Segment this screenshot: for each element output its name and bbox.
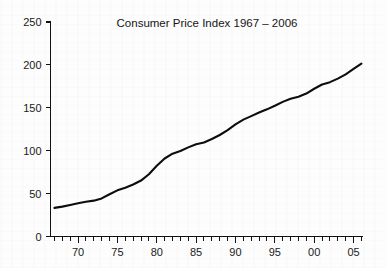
- y-tick-label: 100: [23, 145, 41, 157]
- y-axis-ticks: 050100150200250: [23, 16, 50, 243]
- cpi-line-chart: Consumer Price Index 1967 – 2006 0501001…: [0, 0, 386, 268]
- chart-screenshot: Consumer Price Index 1967 – 2006 0501001…: [0, 0, 386, 268]
- x-tick-label: 90: [229, 246, 241, 258]
- y-tick-label: 0: [35, 231, 41, 243]
- x-tick-label: 95: [269, 246, 281, 258]
- y-tick-label: 200: [23, 59, 41, 71]
- y-tick-label: 150: [23, 102, 41, 114]
- chart-title: Consumer Price Index 1967 – 2006: [117, 17, 298, 29]
- x-tick-label: 80: [151, 246, 163, 258]
- x-tick-label: 00: [308, 246, 320, 258]
- data-series-group: [54, 64, 361, 208]
- x-axis-ticks: 7075808590950005: [54, 237, 361, 258]
- data-series-line: [54, 64, 361, 208]
- axes-group: [51, 22, 364, 237]
- y-tick-label: 250: [23, 16, 41, 28]
- x-tick-label: 85: [190, 246, 202, 258]
- x-tick-label: 05: [347, 246, 359, 258]
- x-tick-label: 75: [111, 246, 123, 258]
- x-tick-label: 70: [72, 246, 84, 258]
- y-tick-label: 50: [29, 188, 41, 200]
